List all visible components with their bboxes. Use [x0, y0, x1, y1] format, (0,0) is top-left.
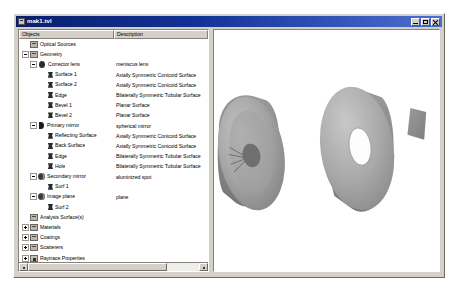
tree-item-description: Bilaterally Symmetric Tubular Surface [114, 92, 208, 98]
tree-item-label: Edge [55, 153, 67, 160]
tree-row[interactable]: Optical Sources [19, 39, 208, 49]
tree-expander-placeholder [38, 132, 45, 139]
mirror-icon [39, 122, 44, 129]
tree-row[interactable]: Surface 2Axially Symmetric Conicoid Surf… [19, 80, 208, 90]
folder-icon [30, 234, 38, 241]
surface-icon [47, 112, 53, 118]
tree-row[interactable]: EdgeBilaterally Symmetric Tubular Surfac… [19, 90, 208, 100]
tree-row-object-cell: Surface 1 [19, 71, 114, 78]
tree-item-description: meniscus lens [114, 61, 208, 67]
tree-expander-placeholder [38, 153, 45, 160]
tree-row[interactable]: Secondary mirroraluminized spot [19, 171, 208, 181]
tree-expander-placeholder [38, 112, 45, 119]
tree-row-object-cell: Image plane [19, 193, 114, 200]
tree-row[interactable]: Coatings [19, 233, 208, 243]
column-header-description[interactable]: Description [114, 30, 208, 39]
scroll-left-arrow[interactable] [19, 263, 28, 271]
viewport-panel[interactable] [213, 29, 440, 272]
maximize-button[interactable] [421, 18, 430, 26]
tree-item-label: Back Surface [55, 142, 85, 149]
folder-icon [30, 224, 38, 231]
tree-row[interactable]: Back SurfaceAxially Symmetric Conicoid S… [19, 141, 208, 151]
collapse-minus-icon[interactable] [30, 61, 37, 68]
tree-item-label: Bevel 1 [55, 102, 72, 109]
tree-item-label: Surf 2 [55, 204, 69, 211]
tree-item-label: Scatterers [40, 244, 63, 251]
tree-row-object-cell: Edge [19, 92, 114, 99]
tree-row[interactable]: Surf 1 [19, 182, 208, 192]
tree-row-object-cell: Bevel 1 [19, 102, 114, 109]
tree-expander-placeholder [22, 214, 29, 221]
expand-plus-icon[interactable] [22, 255, 29, 262]
collapse-minus-icon[interactable] [22, 51, 29, 58]
tree-item-label: Analysis Surface(s) [40, 214, 84, 221]
minimize-button[interactable] [411, 18, 420, 26]
collapse-minus-icon[interactable] [30, 193, 37, 200]
tree-row-object-cell: Surf 2 [19, 204, 114, 211]
surface-icon [47, 184, 53, 190]
app-document-icon [18, 18, 25, 25]
tree-item-label: Edge [55, 92, 67, 99]
tree-row[interactable]: Reflecting SurfaceAxially Symmetric Coni… [19, 131, 208, 141]
tree-row[interactable]: Corrector lensmeniscus lens [19, 59, 208, 69]
tree-item-description: spherical mirror [114, 123, 208, 129]
expand-plus-icon[interactable] [22, 234, 29, 241]
horizontal-scroll-thumb[interactable] [28, 263, 167, 271]
expand-plus-icon[interactable] [22, 224, 29, 231]
tree-row[interactable]: Scatterers [19, 243, 208, 253]
tree-row[interactable]: Geometry [19, 49, 208, 59]
surface-icon [47, 92, 53, 98]
expand-plus-icon[interactable] [22, 244, 29, 251]
primary-mirror [214, 92, 293, 215]
tree-item-label: Image plane [47, 193, 75, 200]
horizontal-scrollbar[interactable] [19, 262, 208, 271]
tree-row[interactable]: Image planeplane [19, 192, 208, 202]
close-button[interactable] [431, 18, 440, 26]
collapse-minus-icon[interactable] [30, 122, 37, 129]
window-client-area: Objects Description Optical SourcesGeome… [16, 28, 442, 275]
scroll-right-arrow[interactable] [199, 263, 208, 271]
tree-row[interactable]: Surf 2 [19, 202, 208, 212]
tree-item-label: Surface 1 [55, 71, 77, 78]
tree-expander-placeholder [38, 204, 45, 211]
tree-row[interactable]: Bevel 2Planar Surface [19, 110, 208, 120]
tree-item-description: Axially Symmetric Conicoid Surface [114, 72, 208, 78]
tree-column-headers: Objects Description [19, 30, 208, 39]
tree-row[interactable]: Primary mirrorspherical mirror [19, 121, 208, 131]
tree-item-label: Raytrace Properties [40, 255, 85, 262]
tree-row[interactable]: Raytrace Properties [19, 253, 208, 262]
surface-icon [47, 82, 53, 88]
tree-expander-placeholder [38, 102, 45, 109]
tree-row-object-cell: Secondary mirror [19, 173, 114, 180]
title-bar[interactable]: mak1.tvl [16, 16, 442, 27]
tree-row[interactable]: Materials [19, 222, 208, 232]
collapse-minus-icon[interactable] [30, 173, 37, 180]
tree-row[interactable]: Analysis Surface(s) [19, 212, 208, 222]
tree-row-object-cell: Corrector lens [19, 61, 114, 68]
tree-item-label: Primary mirror [47, 122, 79, 129]
tree-item-label: Secondary mirror [47, 173, 86, 180]
corrector-lens [312, 82, 402, 215]
tree-item-label: Coatings [40, 234, 60, 241]
tree-item-description: Planar Surface [114, 102, 208, 108]
3d-optical-layout[interactable] [214, 30, 439, 271]
tree-row-object-cell: Primary mirror [19, 122, 114, 129]
tree-row[interactable]: EdgeBilaterally Symmetric Tubular Surfac… [19, 151, 208, 161]
tree-item-description: Bilaterally Symmetric Tubular Surface [114, 153, 208, 159]
tree-row[interactable]: Surface 1Axially Symmetric Conicoid Surf… [19, 70, 208, 80]
tree-expander-placeholder [38, 183, 45, 190]
tree-item-description: Axially Symmetric Conicoid Surface [114, 133, 208, 139]
tree-row-object-cell: Raytrace Properties [19, 255, 114, 262]
column-header-objects[interactable]: Objects [19, 30, 114, 39]
tree-row[interactable]: Bevel 1Planar Surface [19, 100, 208, 110]
tree-row-object-cell: Reflecting Surface [19, 132, 114, 139]
scroll-track[interactable] [28, 263, 199, 271]
tree-row[interactable]: HoleBilaterally Symmetric Tubular Surfac… [19, 161, 208, 171]
tree-row-object-cell: Materials [19, 224, 114, 231]
tree-expander-placeholder [38, 92, 45, 99]
perspective-icon [38, 193, 45, 200]
tree-row-object-cell: Back Surface [19, 142, 114, 149]
lens-icon [39, 61, 45, 68]
folder-icon [30, 51, 38, 58]
split-panes: Objects Description Optical SourcesGeome… [18, 29, 440, 272]
